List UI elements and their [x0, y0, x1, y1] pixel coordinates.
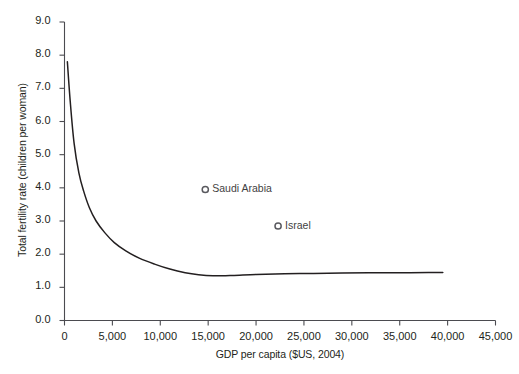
y-axis-title: Total fertility rate (children per woman…: [16, 20, 32, 320]
fertility-gdp-chart: Total fertility rate (children per woman…: [0, 0, 519, 374]
x-tick-label: 45,000: [461, 330, 519, 342]
country-label: Israel: [285, 219, 311, 231]
y-tick-label: 0.0: [17, 313, 51, 325]
y-tick-label: 2.0: [17, 246, 51, 258]
axis-lines: [64, 22, 496, 321]
country-marker: [275, 223, 281, 229]
country-label: Saudi Arabia: [212, 182, 272, 194]
fertility-trend-curve: [67, 62, 442, 276]
y-tick-label: 6.0: [17, 114, 51, 126]
y-tick-label: 9.0: [17, 14, 51, 26]
y-tick-label: 8.0: [17, 47, 51, 59]
y-tick-label: 4.0: [17, 180, 51, 192]
y-axis-ticks: [60, 22, 65, 321]
y-tick-label: 5.0: [17, 147, 51, 159]
y-tick-label: 7.0: [17, 80, 51, 92]
x-axis-title: GDP per capita ($US, 2004): [64, 348, 496, 360]
y-tick-label: 1.0: [17, 279, 51, 291]
x-axis-ticks: [65, 321, 496, 326]
y-tick-label: 3.0: [17, 213, 51, 225]
country-marker: [202, 186, 208, 192]
